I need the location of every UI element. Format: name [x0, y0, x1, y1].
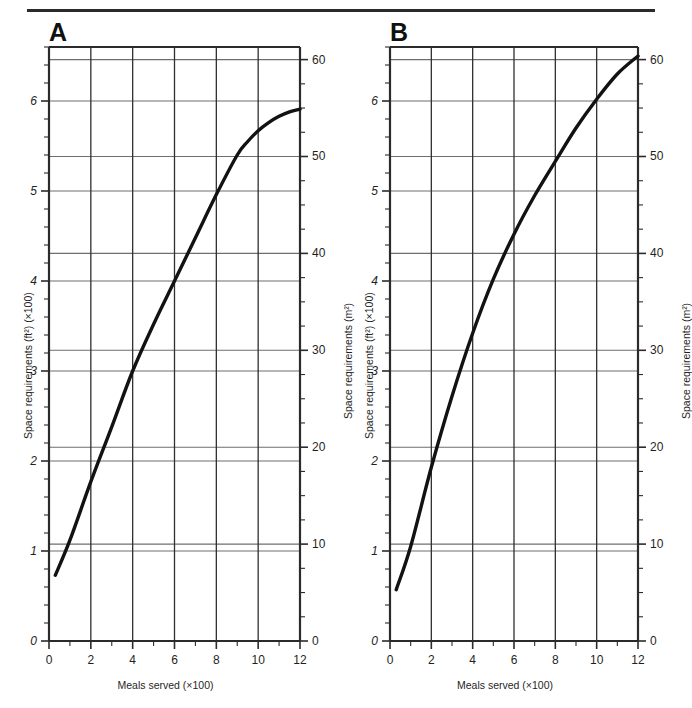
svg-text:4: 4: [371, 274, 378, 288]
svg-text:2: 2: [29, 454, 37, 468]
svg-text:0: 0: [650, 634, 657, 648]
svg-text:6: 6: [371, 94, 378, 108]
svg-text:0: 0: [46, 653, 53, 667]
panel-b-left-axis-title: Space requirements (ft²) (×100): [363, 292, 375, 439]
svg-text:2: 2: [370, 454, 378, 468]
svg-text:4: 4: [469, 653, 476, 667]
svg-text:12: 12: [631, 653, 645, 667]
svg-text:40: 40: [312, 246, 326, 260]
svg-text:10: 10: [251, 653, 265, 667]
svg-text:6: 6: [30, 94, 37, 108]
svg-text:20: 20: [312, 440, 326, 454]
panel-b-right-axis-title: Space requirements (m²): [680, 303, 692, 419]
svg-text:6: 6: [511, 653, 518, 667]
svg-text:10: 10: [312, 537, 326, 551]
svg-text:30: 30: [312, 343, 326, 357]
svg-text:60: 60: [312, 53, 326, 67]
svg-text:50: 50: [312, 149, 326, 163]
svg-text:10: 10: [650, 537, 664, 551]
panel-a-x-axis-title: Meals served (×100): [118, 679, 214, 691]
svg-text:60: 60: [650, 53, 664, 67]
svg-text:50: 50: [650, 149, 664, 163]
svg-text:20: 20: [650, 440, 664, 454]
svg-text:0: 0: [30, 634, 37, 648]
svg-text:0: 0: [312, 634, 319, 648]
svg-text:8: 8: [213, 653, 220, 667]
svg-text:5: 5: [371, 184, 378, 198]
svg-text:1: 1: [30, 544, 37, 558]
svg-text:4: 4: [30, 274, 37, 288]
panel-a-plot: 01234560102030405060024681012: [0, 0, 341, 708]
svg-text:40: 40: [650, 246, 664, 260]
chart-panel-a: A 01234560102030405060024681012 Space re…: [0, 0, 341, 708]
svg-text:0: 0: [371, 634, 378, 648]
svg-text:2: 2: [87, 653, 94, 667]
panel-b-plot: 01234560102030405060024681012: [341, 0, 683, 708]
svg-text:6: 6: [171, 653, 178, 667]
svg-text:1: 1: [371, 544, 378, 558]
svg-text:10: 10: [590, 653, 604, 667]
svg-text:12: 12: [293, 653, 307, 667]
svg-text:4: 4: [129, 653, 136, 667]
chart-panel-b: B 01234560102030405060024681012 Space re…: [341, 0, 682, 708]
panel-b-x-axis-title: Meals served (×100): [457, 679, 553, 691]
svg-text:2: 2: [428, 653, 435, 667]
svg-text:0: 0: [387, 653, 394, 667]
panel-a-left-axis-title: Space requirements (ft²) (×100): [22, 292, 34, 439]
svg-text:8: 8: [552, 653, 559, 667]
svg-text:30: 30: [650, 343, 664, 357]
svg-text:5: 5: [30, 184, 37, 198]
